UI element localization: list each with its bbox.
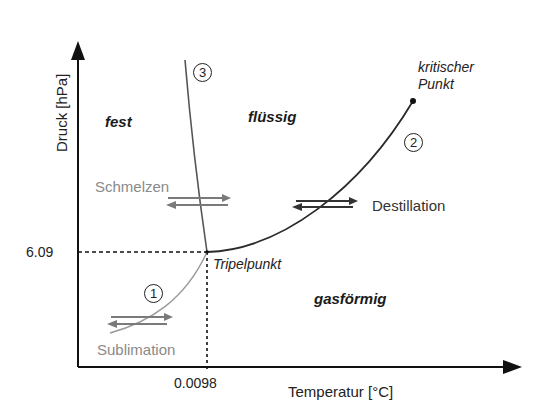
y-tick-triple-pressure: 6.09 [26, 245, 53, 259]
triple-point-marker [205, 250, 209, 254]
process-label-distillation: Destillation [372, 198, 445, 213]
melting-equilibrium-arrows [166, 194, 231, 209]
phase-label-liquid: flüssig [248, 109, 296, 124]
triple-point-label: Tripelpunkt [213, 257, 281, 271]
phase-label-solid: fest [105, 114, 132, 129]
curve-number-2-vaporization: 2 [404, 133, 423, 152]
critical-point-marker [410, 98, 416, 104]
critical-point-label-line1: kritischer [418, 60, 474, 74]
melting-curve [185, 60, 207, 252]
x-tick-triple-temperature: 0.0098 [174, 376, 217, 390]
process-label-sublimation: Sublimation [97, 342, 175, 357]
y-axis [71, 41, 85, 367]
y-axis-title: Druck [hPa] [54, 74, 69, 152]
x-axis-title: Temperatur [°C] [288, 384, 393, 399]
phase-label-gas: gasförmig [314, 291, 387, 306]
curve-number-1-sublimation: 1 [144, 284, 163, 303]
vapor-pressure-curve [207, 101, 413, 252]
process-label-melting: Schmelzen [95, 179, 169, 194]
critical-point-label-line2: Punkt [418, 77, 454, 91]
curve-number-3-melting: 3 [193, 63, 212, 82]
sublimation-equilibrium-arrows [107, 313, 173, 328]
x-axis [78, 360, 522, 374]
